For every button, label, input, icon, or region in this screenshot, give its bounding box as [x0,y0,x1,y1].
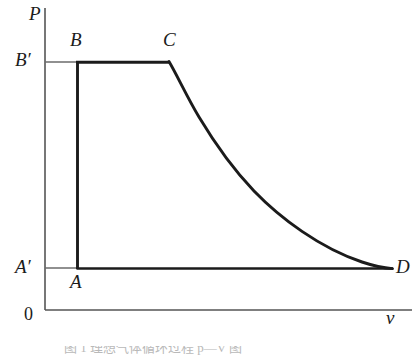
figure-caption: 图 1 理想气体循环过程 p—V 图 [64,346,242,356]
point-label-d: D [396,257,410,276]
process-curve-cd [169,62,393,269]
origin-label: 0 [24,305,33,323]
figure-caption-clip: 图 1 理想气体循环过程 p—V 图 [0,346,420,356]
y-axis-label: P [29,4,41,23]
level-label-a-prime: A′ [15,257,31,276]
point-label-a: A [70,272,82,291]
x-axis-label: v [386,308,394,327]
pv-cycle-diagram [0,0,420,356]
point-label-b: B [70,30,82,49]
point-label-c: C [163,30,176,49]
level-label-b-prime: B′ [15,50,31,69]
figure-container: P v 0 B′ A′ B C A D 图 1 理想气体循环过程 p—V 图 [0,0,420,356]
